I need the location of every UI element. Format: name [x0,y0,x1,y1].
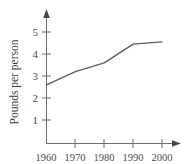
y-tick-label-1: 1 [33,114,39,126]
y-axis-arrowhead [43,9,50,18]
x-tick-label-1970: 1970 [65,152,86,163]
data-series-line [47,42,163,85]
y-tick-label-2: 2 [33,92,39,104]
x-tick-label-2000: 2000 [152,152,173,163]
y-tick-label-5: 5 [33,26,39,38]
y-tick-label-4: 4 [33,48,39,60]
y-axis-label: Pounds per person [8,39,21,124]
line-chart-figure: Pounds per person 5 4 3 2 1 1960 1970 19… [0,0,185,164]
y-tick-label-3: 3 [33,70,39,82]
x-tick-label-1990: 1990 [123,152,144,163]
x-axis-arrowhead [172,140,181,147]
x-tick-label-1960: 1960 [36,152,57,163]
x-tick-label-1980: 1980 [94,152,115,163]
chart-canvas: Pounds per person 5 4 3 2 1 1960 1970 19… [0,0,185,164]
